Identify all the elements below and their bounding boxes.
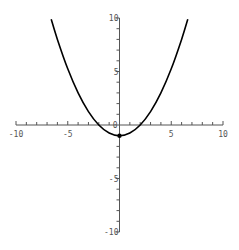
marked-point xyxy=(117,134,121,138)
x-tick-label: -10 xyxy=(9,130,24,139)
x-tick-label: 10 xyxy=(218,130,228,139)
y-tick-label: 10 xyxy=(109,14,119,23)
chart: -10 -5 5 10 10 5 -5 -10 0 xyxy=(0,0,239,250)
y-tick-label: -5 xyxy=(109,175,119,184)
origin-label: 0 xyxy=(113,121,118,130)
x-tick-label: 5 xyxy=(169,130,174,139)
y-tick-label: 5 xyxy=(114,68,119,77)
x-tick-label: -5 xyxy=(63,130,73,139)
y-tick-label: -10 xyxy=(104,228,119,237)
